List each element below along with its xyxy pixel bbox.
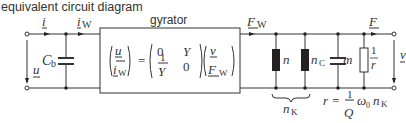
svg-text:F: F (207, 62, 217, 77)
voltage-u: u (33, 62, 40, 77)
arrow-right-icon (78, 32, 84, 36)
terminal-top-right (392, 32, 396, 36)
arrow-right-icon (371, 32, 377, 36)
gyrator-label: gyrator (150, 13, 187, 27)
svg-text:Y: Y (158, 64, 167, 79)
svg-text:Y: Y (183, 44, 192, 59)
svg-text:ω: ω (357, 93, 366, 108)
svg-text:=: = (138, 53, 145, 68)
force-fw: F (246, 14, 256, 29)
arrow-down-icon (25, 78, 29, 84)
circuit-diagram: gyrator i i W u C b u i W = 0 Y 1 Y 0 v … (0, 0, 406, 123)
svg-text:0: 0 (183, 59, 190, 74)
svg-text:W: W (219, 68, 228, 78)
arrow-down-icon (392, 78, 396, 84)
resistor-icon (360, 48, 368, 72)
svg-text:Q: Q (344, 105, 354, 120)
svg-text:i: i (77, 14, 81, 29)
current-i: i (42, 14, 46, 29)
terminal-bottom-right (392, 86, 396, 90)
arrow-right-icon (44, 32, 50, 36)
svg-text:1: 1 (160, 51, 166, 63)
svg-text:v: v (210, 43, 216, 58)
svg-text:K: K (381, 99, 388, 109)
svg-text:r: r (371, 58, 376, 72)
svg-text:1: 1 (371, 44, 377, 56)
svg-text:i: i (113, 62, 117, 77)
terminal-top-left (25, 32, 29, 36)
svg-text:1: 1 (347, 88, 353, 100)
formula-lhs: r = (323, 93, 340, 108)
svg-text:n: n (373, 93, 380, 108)
svg-text:0: 0 (366, 101, 370, 110)
terminal-bottom-left (25, 86, 29, 90)
svg-text:K: K (291, 107, 298, 117)
arrow-right-icon (249, 32, 255, 36)
svg-text:b: b (51, 58, 56, 69)
velocity-v: v (400, 47, 406, 62)
svg-text:C: C (319, 58, 325, 68)
force-f: F (368, 14, 378, 29)
svg-text:W: W (118, 68, 127, 78)
spring-nc-icon (301, 49, 309, 71)
svg-text:W: W (257, 19, 267, 30)
spring-n-label: n (283, 52, 290, 67)
spring-n-icon (272, 49, 280, 71)
mass-m-label: m (343, 52, 352, 67)
svg-text:u: u (115, 43, 122, 58)
svg-text:W: W (82, 19, 92, 30)
brace-nk-label: n (283, 101, 290, 116)
spring-nc-label: n (311, 52, 318, 67)
